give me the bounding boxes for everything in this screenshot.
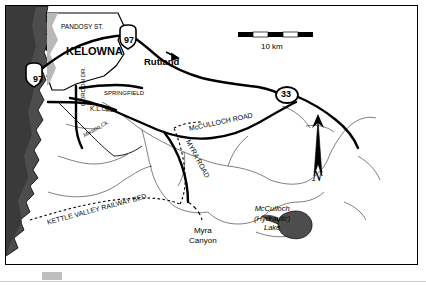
map-label-myra-canyon: Myra Canyon	[189, 226, 217, 246]
scale-bar-label: 10 km	[261, 42, 283, 51]
map-label-mcculloch-lake: McCulloch (Hydraulic) Lake	[254, 204, 290, 233]
footer-swatch	[42, 272, 62, 280]
hwy-number-hwy-97-west: 97	[31, 74, 45, 84]
map-label-rd-1: RD.	[106, 107, 115, 115]
north-arrow-icon	[312, 114, 324, 176]
map-label-rutland: Rutland	[144, 56, 179, 68]
map-label-kelowna: KELOWNA	[66, 45, 123, 58]
hwy-number-hwy-97-north: 97	[122, 35, 136, 45]
scale-bar	[238, 32, 313, 37]
footer-rule	[0, 281, 426, 282]
map-label-pandosy-st: PANDOSY ST.	[61, 23, 103, 32]
map-label-springfield: SPRINGFIELD	[104, 89, 144, 97]
compass-letter: N	[312, 168, 322, 185]
road-springfield	[80, 85, 142, 88]
myra-canyon-trail	[188, 202, 202, 220]
hwy-number-hwy-33: 33	[279, 89, 293, 99]
map-figure: PANDOSY ST.KELOWNARutlandSPRINGFIELDK.L.…	[0, 0, 426, 286]
road-hwy-33-east	[296, 96, 358, 148]
map-label-gordon-dr: GORDON DR.	[79, 67, 87, 106]
